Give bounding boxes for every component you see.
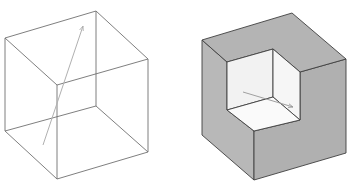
diagonal-arrow (43, 26, 83, 145)
cube-top-face-edges (5, 11, 148, 85)
figure-canvas (0, 0, 347, 184)
notched-cube (202, 13, 346, 180)
wireframe-cube (5, 11, 148, 179)
cube-bottom-face-edges (5, 106, 148, 179)
